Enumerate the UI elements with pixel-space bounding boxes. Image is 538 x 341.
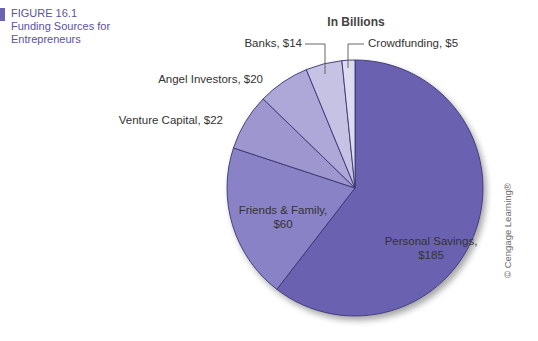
chart-title: In Billions [327,15,385,29]
label-banks: Banks, $14 [244,37,302,49]
copyright-notice: © Cengage Learning® [502,183,513,278]
pie-chart: In Billions Personal Savings,$185Friends… [0,0,538,341]
label-crowdfunding: Crowdfunding, $5 [368,37,458,49]
pie-slices [227,60,483,316]
label-angel-investors: Angel Investors, $20 [158,73,263,85]
label-venture-capital: Venture Capital, $22 [119,114,223,126]
